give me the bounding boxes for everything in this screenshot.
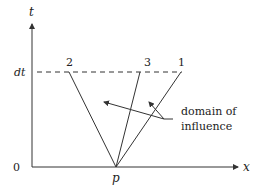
characteristic-3 (116, 72, 140, 167)
annotation-line1: domain of (181, 105, 237, 118)
domain-of-influence-diagram: t x 0 dt p 2 3 1 domain of influence (0, 0, 262, 192)
characteristic-2-label: 2 (66, 56, 73, 69)
dt-label: dt (14, 66, 26, 79)
annotation-line2: influence (181, 120, 232, 133)
x-axis-label: x (243, 160, 250, 174)
characteristic-3-label: 3 (144, 56, 151, 69)
characteristic-2 (69, 72, 116, 167)
t-axis-label: t (29, 5, 34, 19)
characteristic-1-label: 1 (178, 56, 185, 69)
origin-label: 0 (13, 161, 20, 174)
p-label: p (112, 171, 120, 185)
